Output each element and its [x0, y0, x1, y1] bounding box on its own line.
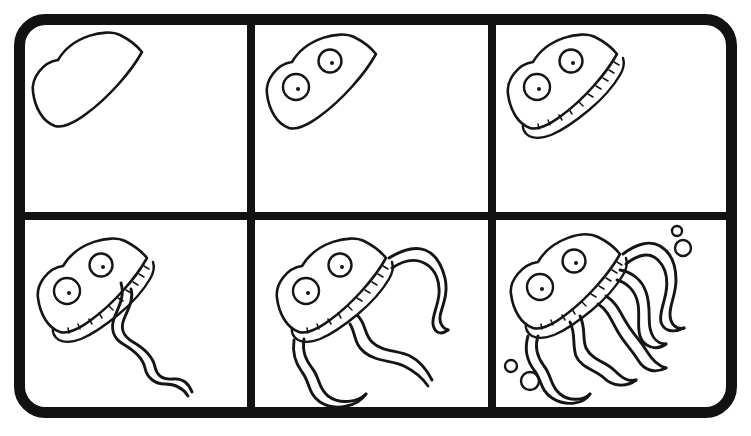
pupil-right: [330, 61, 334, 65]
pupil-right: [574, 261, 578, 265]
panel-step-4[interactable]: [25, 222, 246, 406]
panel-5-hit-area[interactable]: [256, 222, 487, 406]
panel-step-1[interactable]: [25, 25, 246, 211]
frill-tick: [68, 328, 69, 333]
frill-tick: [541, 324, 542, 329]
pupil-left: [537, 87, 541, 91]
panel-step-2[interactable]: [256, 25, 487, 211]
pupil-left: [296, 87, 300, 91]
pupil-right: [340, 265, 344, 269]
pupil-left: [67, 291, 71, 295]
panel-step-6[interactable]: [497, 222, 726, 406]
panel-4-hit-area[interactable]: [25, 222, 246, 406]
panel-step-5[interactable]: [256, 222, 487, 407]
frill-tick: [307, 328, 308, 333]
pupil-left: [306, 291, 310, 295]
pupil-left: [540, 287, 544, 291]
panel-step-3[interactable]: [497, 25, 726, 211]
panel-1-hit-area[interactable]: [25, 25, 246, 211]
drawing-tutorial-canvas: [0, 0, 751, 436]
pupil-right: [571, 61, 575, 65]
panel-2-hit-area[interactable]: [256, 25, 487, 211]
pupil-right: [101, 265, 105, 269]
frill-tick: [538, 124, 539, 129]
panel-3-hit-area[interactable]: [497, 25, 726, 211]
